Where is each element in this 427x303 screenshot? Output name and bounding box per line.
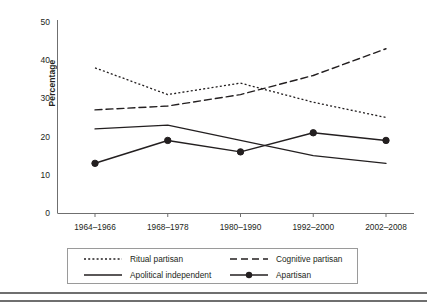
- legend-label: Apolitical independent: [130, 270, 211, 280]
- legend-item-apartisan[interactable]: Apartisan: [228, 266, 311, 284]
- data-point-marker: [237, 149, 243, 155]
- series-line: [95, 49, 386, 110]
- series-canvas: [57, 20, 414, 218]
- legend-label: Cognitive partisan: [276, 254, 342, 264]
- legend-label: Apartisan: [276, 270, 311, 280]
- data-point-marker: [310, 130, 316, 136]
- legend-swatch-solid-marker-icon: [228, 269, 270, 281]
- x-axis-tick-label: 2002–2008: [346, 222, 426, 232]
- x-axis-tick-label: 1992–2000: [273, 222, 353, 232]
- y-axis-tick-label: 20: [28, 132, 50, 142]
- series-line: [95, 125, 386, 163]
- data-point-marker: [165, 137, 171, 143]
- footer-rule-bottom: [0, 300, 427, 302]
- legend-label: Ritual partisan: [130, 254, 183, 264]
- x-axis-tick-label: 1968–1978: [128, 222, 208, 232]
- footer-rule-top: [0, 292, 427, 294]
- x-axis-tick-labels: 1964–19661968–19781980–19901992–20002002…: [57, 222, 414, 238]
- chart-figure: Percentage 01020304050 1964–19661968–197…: [0, 0, 427, 303]
- y-axis-tick-label: 30: [28, 93, 50, 103]
- plot-area: [57, 20, 414, 218]
- x-axis-tick-label: 1980–1990: [201, 222, 281, 232]
- data-point-marker: [92, 160, 98, 166]
- y-axis-tick-label: 10: [28, 170, 50, 180]
- legend-swatch-dashed-icon: [228, 253, 270, 265]
- y-axis-title: Percentage: [47, 33, 57, 133]
- legend-swatch-solid-icon: [82, 269, 124, 281]
- data-point-marker: [383, 137, 389, 143]
- chart-legend: Ritual partisan Cognitive partisan Apoli…: [67, 248, 358, 284]
- legend-swatch-dotted-icon: [82, 253, 124, 265]
- y-axis-tick-label: 0: [28, 208, 50, 218]
- series-line: [95, 68, 386, 118]
- legend-row-2: Apolitical independent Apartisan: [68, 266, 357, 284]
- y-axis-tick-label: 40: [28, 55, 50, 65]
- x-axis-tick-label: 1964–1966: [55, 222, 135, 232]
- legend-item-apolitical-independent[interactable]: Apolitical independent: [82, 266, 211, 284]
- legend-marker: [246, 272, 252, 278]
- y-axis-tick-label: 50: [28, 17, 50, 27]
